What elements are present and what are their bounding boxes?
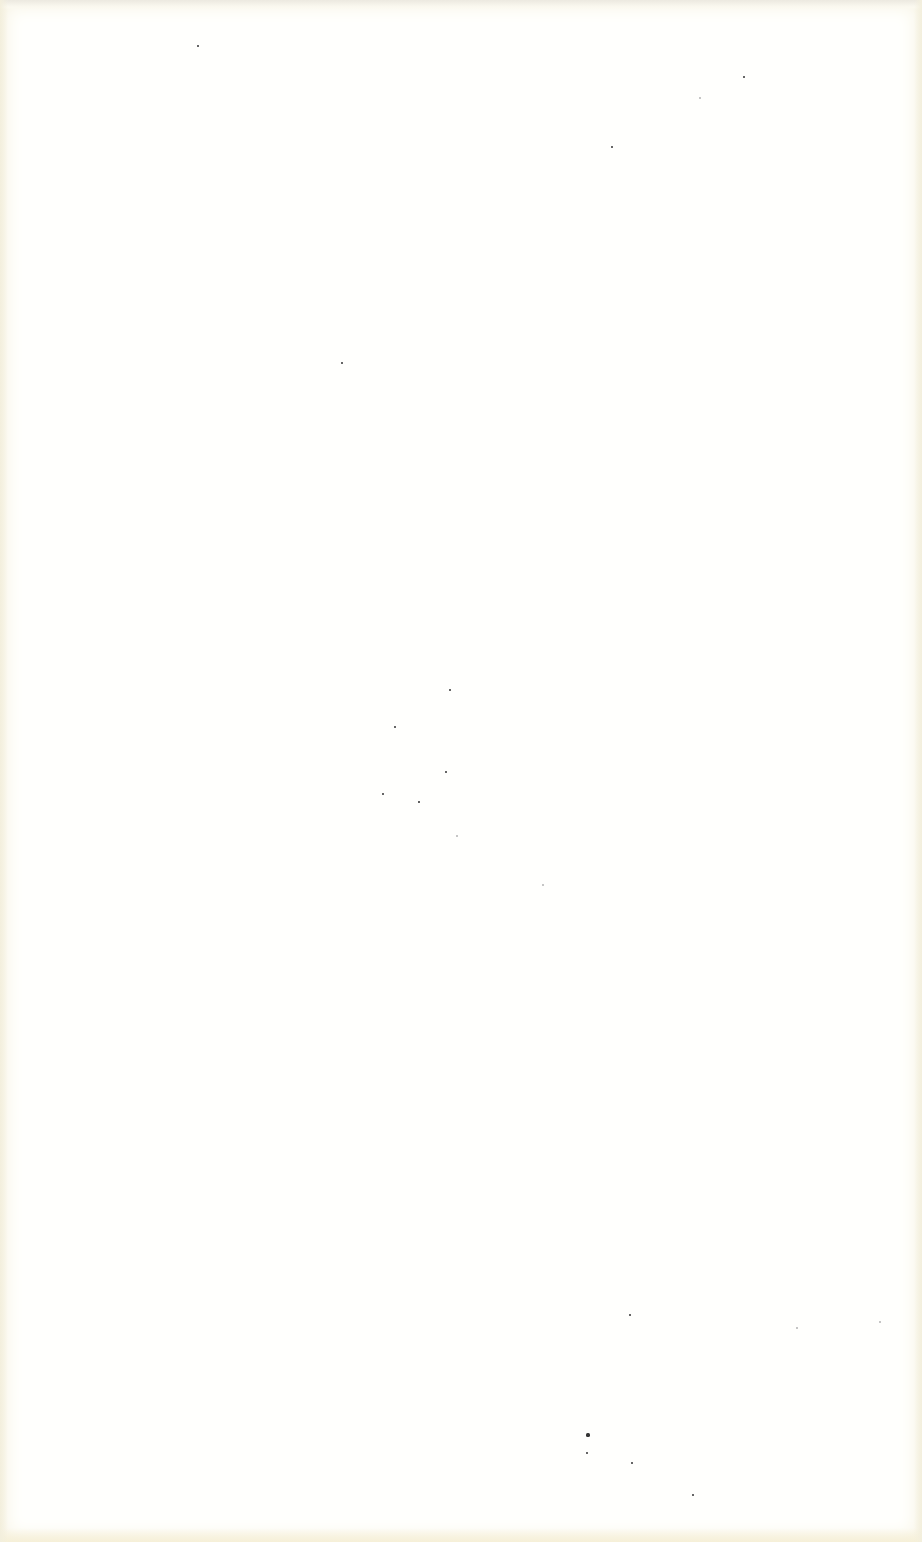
scan-top-edge bbox=[0, 0, 922, 10]
dust-speck bbox=[586, 1452, 588, 1454]
dust-speck bbox=[456, 835, 458, 837]
blank-scanned-page bbox=[0, 0, 922, 1542]
scan-right-edge bbox=[914, 0, 922, 1542]
dust-speck bbox=[382, 793, 384, 795]
dust-speck bbox=[879, 1321, 881, 1323]
dust-speck bbox=[341, 362, 343, 364]
dust-speck bbox=[699, 97, 701, 99]
dust-speck bbox=[629, 1314, 631, 1316]
dust-speck bbox=[631, 1462, 634, 1465]
dust-speck bbox=[542, 884, 544, 886]
dust-speck bbox=[586, 1433, 589, 1436]
dust-speck bbox=[611, 146, 613, 148]
dust-speck bbox=[394, 726, 396, 728]
scan-bottom-edge bbox=[0, 1528, 922, 1542]
dust-speck bbox=[796, 1327, 797, 1328]
dust-speck bbox=[197, 45, 199, 47]
dust-speck bbox=[743, 76, 745, 78]
dust-speck bbox=[445, 771, 447, 773]
dust-speck bbox=[449, 689, 451, 691]
dust-speck bbox=[418, 801, 420, 803]
scan-left-edge bbox=[0, 0, 8, 1542]
dust-speck bbox=[692, 1494, 695, 1497]
